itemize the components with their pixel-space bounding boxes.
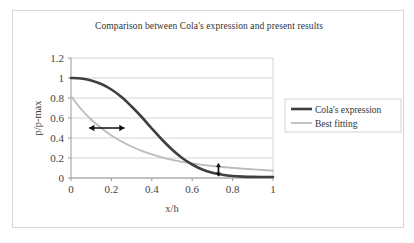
y-tick-label: 0 bbox=[59, 172, 65, 184]
annotation-arrow-head-left bbox=[89, 125, 94, 131]
x-tick-label: 0.8 bbox=[226, 183, 240, 195]
x-tick-label: 0.6 bbox=[185, 183, 199, 195]
x-tick-labels: 00.20.40.60.81 bbox=[68, 183, 276, 195]
y-tick-label: 0.4 bbox=[50, 132, 64, 144]
y-axis-title: p/p-max bbox=[32, 100, 43, 136]
y-tick-label: 1.2 bbox=[50, 52, 64, 64]
legend-label: Best fitting bbox=[315, 119, 358, 129]
y-tick-label: 0.6 bbox=[50, 112, 64, 124]
x-tick-label: 0.4 bbox=[145, 183, 159, 195]
y-tick-label: 0.2 bbox=[50, 152, 64, 164]
series-line bbox=[71, 96, 273, 171]
y-tick-label: 1 bbox=[59, 72, 65, 84]
x-tick-label: 0.2 bbox=[105, 183, 119, 195]
x-axis-title: x/h bbox=[165, 203, 179, 214]
x-tick-label: 1 bbox=[270, 183, 276, 195]
y-tick-labels: 00.20.40.60.811.2 bbox=[50, 52, 64, 184]
legend-label: Cola's expression bbox=[315, 105, 382, 115]
chart-legend: Cola's expressionBest fitting bbox=[285, 99, 401, 132]
chart-plot: 00.20.40.60.81 00.20.40.60.811.2 x/hp/p-… bbox=[13, 11, 405, 229]
chart-frame: Comparison between Cola's expression and… bbox=[12, 10, 404, 228]
y-tick-label: 0.8 bbox=[50, 92, 64, 104]
annotation-arrow-head-up bbox=[216, 164, 221, 168]
tick-marks bbox=[68, 58, 273, 181]
x-tick-label: 0 bbox=[68, 183, 74, 195]
annotation-arrow-head-right bbox=[119, 125, 124, 131]
